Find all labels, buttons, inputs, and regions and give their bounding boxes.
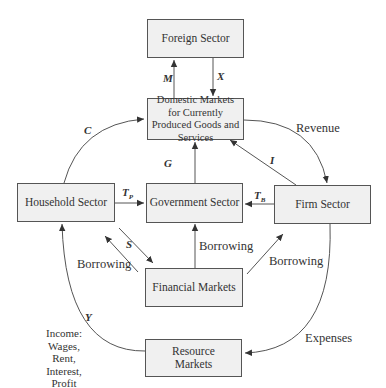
investment-label: I [270, 154, 274, 166]
household-sector-box: Household Sector [17, 183, 115, 222]
income-symbol: Y [85, 311, 92, 323]
domestic-markets-label: Domestic Markets for Currently Produced … [150, 94, 241, 144]
financial-markets-label: Financial Markets [152, 281, 235, 295]
imports-label: M [163, 72, 173, 84]
financial-markets-box: Financial Markets [145, 268, 243, 307]
resource-markets-box: Resource Markets [145, 339, 242, 377]
government-sector-label: Government Sector [150, 196, 240, 210]
firm-sector-box: Firm Sector [274, 185, 371, 224]
household-sector-label: Household Sector [25, 196, 107, 210]
saving-label: S [126, 238, 132, 250]
government-sector-box: Government Sector [146, 183, 243, 223]
resource-markets-label: Resource Markets [164, 345, 223, 372]
consumption-label: C [84, 124, 91, 136]
firm-sector-label: Firm Sector [295, 198, 350, 212]
firm-borrowing-label: Borrowing [269, 254, 323, 269]
domestic-markets-box: Domestic Markets for Currently Produced … [147, 98, 244, 140]
revenue-label: Revenue [296, 121, 340, 136]
expenses-label: Expenses [305, 331, 352, 346]
government-borrowing-label: Borrowing [199, 239, 253, 254]
personal-taxes-label: TP [122, 186, 133, 201]
foreign-sector-label: Foreign Sector [161, 32, 229, 46]
household-borrowing-label: Borrowing [77, 257, 131, 272]
consumption-arrow [64, 119, 144, 183]
government-spending-label: G [164, 157, 172, 169]
income-label: Income: Wages, Rent, Interest, Profit [44, 327, 84, 388]
investment-arrow [230, 140, 296, 185]
foreign-sector-box: Foreign Sector [147, 19, 244, 58]
business-taxes-label: TB [254, 189, 265, 204]
exports-label: X [217, 70, 224, 82]
